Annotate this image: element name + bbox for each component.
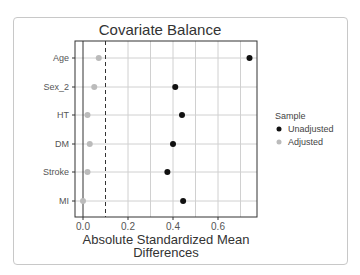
y-tick-label: HT xyxy=(57,110,69,120)
legend-adjusted-marker xyxy=(277,140,282,145)
x-tick-label: 0.0 xyxy=(76,221,90,232)
x-tick-label: 0.2 xyxy=(121,221,135,232)
y-tick-label: Sex_2 xyxy=(43,82,69,92)
y-tick-label: DM xyxy=(55,139,69,149)
data-point-unadjusted xyxy=(247,55,253,61)
x-axis-label-line2: Differences xyxy=(133,245,199,260)
y-tick-label: MI xyxy=(59,196,69,206)
y-tick-label: Stroke xyxy=(43,167,69,177)
data-point-adjusted xyxy=(85,169,91,175)
legend-unadjusted-marker xyxy=(277,127,282,132)
data-point-adjusted xyxy=(87,141,93,147)
data-point-adjusted xyxy=(80,198,86,204)
data-point-unadjusted xyxy=(172,84,178,90)
data-point-unadjusted xyxy=(170,141,176,147)
plot-area: AgeSex_2HTDMStrokeMI0.00.20.40.6 xyxy=(43,41,257,232)
plot-frame xyxy=(75,41,257,217)
data-point-adjusted xyxy=(85,112,91,118)
data-point-unadjusted xyxy=(179,112,185,118)
legend: Sample Unadjusted Adjusted xyxy=(275,111,334,147)
data-point-unadjusted xyxy=(180,198,186,204)
x-tick-label: 0.6 xyxy=(211,221,225,232)
legend-adjusted-label: Adjusted xyxy=(288,137,323,147)
covariate-balance-chart: Covariate Balance AgeSex_2HTDMStrokeMI0.… xyxy=(0,0,360,275)
x-tick-label: 0.4 xyxy=(166,221,180,232)
data-point-adjusted xyxy=(96,55,102,61)
legend-unadjusted-label: Unadjusted xyxy=(288,124,334,134)
legend-title: Sample xyxy=(275,111,306,121)
y-tick-label: Age xyxy=(53,53,69,63)
chart-title: Covariate Balance xyxy=(99,21,222,38)
data-point-adjusted xyxy=(91,84,97,90)
data-point-unadjusted xyxy=(164,169,170,175)
